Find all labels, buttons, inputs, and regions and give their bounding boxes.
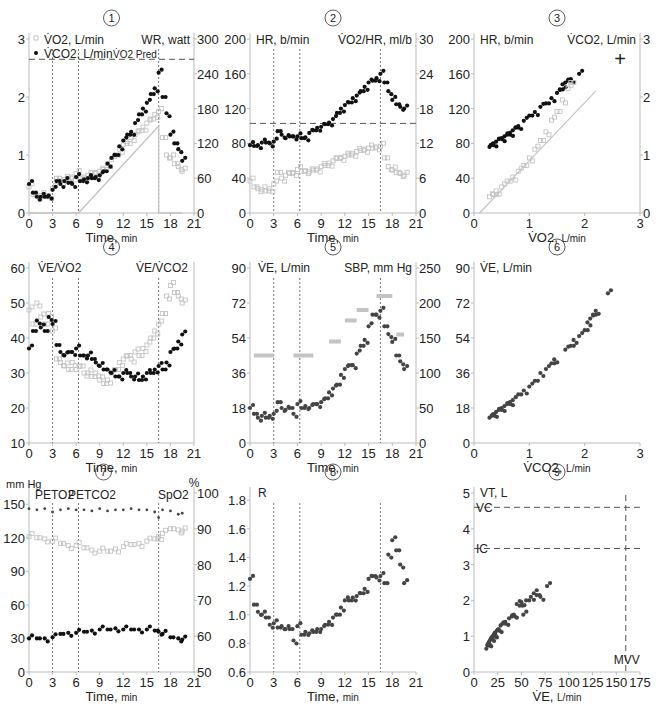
x-tick-label: 12 (338, 446, 352, 461)
data-point (389, 92, 393, 96)
data-point (545, 584, 549, 588)
x-tick-label: 25 (490, 675, 504, 690)
data-point (251, 140, 255, 144)
data-point (530, 113, 534, 117)
panel-number: 6 (554, 241, 560, 253)
y-tick-label: 1.0 (228, 608, 246, 623)
data-point (263, 411, 267, 415)
legend-vo2-marker (34, 36, 38, 40)
data-point (318, 129, 322, 133)
x-tick-label: 12 (116, 446, 130, 461)
data-point (130, 507, 133, 510)
data-point (61, 632, 65, 636)
data-point (144, 110, 148, 114)
data-point (338, 613, 342, 617)
data-point (251, 403, 255, 407)
data-point (177, 513, 180, 516)
data-point (39, 325, 43, 329)
sbp-label: SBP, mm Hg (344, 261, 412, 275)
y-tick-label: 0 (239, 206, 246, 221)
data-point (108, 165, 112, 169)
data-point (378, 574, 382, 578)
data-point (51, 511, 54, 514)
data-point (522, 119, 526, 123)
data-point (267, 615, 271, 619)
data-point (303, 135, 307, 139)
data-point (168, 350, 172, 354)
y-tick-label-right: 200 (419, 296, 441, 311)
data-point (260, 140, 264, 144)
hr-label: HR, b/min (256, 33, 309, 47)
y-tick-label-right: 150 (419, 331, 441, 346)
data-point (272, 140, 276, 144)
data-point (50, 318, 54, 322)
y-tick-label-right: 12 (419, 136, 433, 151)
data-point (43, 636, 47, 640)
data-point (588, 316, 592, 320)
y-tick-label: 80 (456, 136, 470, 151)
data-point (529, 595, 533, 599)
legend-vco2: V̇CO2, L/min (44, 47, 113, 61)
data-point (343, 103, 347, 107)
data-point (541, 598, 545, 602)
y-tick-label: 90 (232, 261, 246, 276)
data-point (180, 332, 184, 336)
data-point (163, 95, 167, 99)
data-point (279, 400, 283, 404)
series-r (248, 535, 409, 645)
data-point (331, 615, 335, 619)
data-point (34, 329, 38, 333)
data-point (129, 130, 133, 134)
y-tick-label: 5 (463, 486, 470, 501)
x-tick-label: 0 (470, 675, 477, 690)
data-point (133, 121, 137, 125)
y-tick-label: 1.2 (228, 579, 246, 594)
series-sbp-mm-hg (254, 294, 404, 358)
data-point (140, 630, 144, 634)
x-tick-label: 6 (73, 216, 80, 231)
y-tick-label: 1 (18, 148, 25, 163)
data-point (77, 628, 81, 632)
data-point (136, 118, 140, 122)
data-point (306, 138, 310, 142)
pred-max-marker: + (614, 48, 626, 70)
data-point (519, 127, 523, 131)
data-point (175, 346, 179, 350)
x-axis-label: Time, min (307, 689, 359, 704)
data-point (58, 350, 62, 354)
x-tick-label: 3 (270, 216, 277, 231)
data-point (339, 605, 343, 609)
series-peto2 (27, 526, 187, 555)
data-point (117, 144, 121, 148)
data-point (74, 346, 78, 350)
x-tick-label: 100 (558, 675, 580, 690)
panel-number: 4 (108, 241, 114, 253)
x-tick-label: 12 (116, 216, 130, 231)
data-point (389, 555, 393, 559)
data-point (495, 415, 499, 419)
data-point (171, 635, 175, 639)
data-point (398, 359, 402, 363)
data-point (53, 632, 57, 636)
data-point (116, 629, 120, 633)
data-point (519, 392, 523, 396)
y-tick-label: 0 (463, 436, 470, 451)
sbp-bar (329, 340, 341, 344)
vco2-label-3: V̇CO2, L/min (567, 33, 636, 47)
data-point (298, 621, 302, 625)
x-tick-label: 6 (294, 675, 301, 690)
data-point (363, 338, 367, 342)
data-point (93, 357, 97, 361)
data-point (176, 147, 180, 151)
x-tick-label: 3 (49, 216, 56, 231)
data-point (140, 378, 144, 382)
y-tick-label: 1.8 (228, 493, 246, 508)
series-v-o2-hr-ml-b (248, 141, 409, 193)
data-point (136, 371, 140, 375)
data-point (291, 134, 295, 138)
data-point (298, 399, 302, 403)
x-tick-label: 1 (526, 446, 533, 461)
data-point (606, 291, 610, 295)
data-point (389, 335, 393, 339)
data-point (74, 631, 78, 635)
